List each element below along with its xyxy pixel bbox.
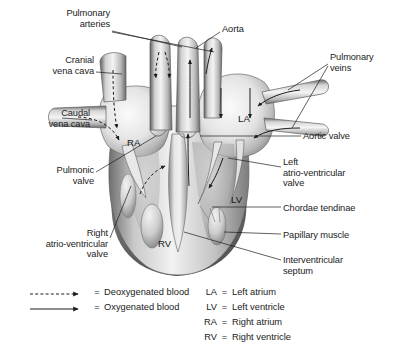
legend-row-deoxygenated: = Deoxygenated blood	[28, 285, 189, 298]
label-aortic-valve: Aortic valve	[303, 131, 389, 142]
label-pulmonic-valve: Pulmonic valve	[14, 165, 94, 186]
abbrev-key-ra: RA	[196, 317, 217, 327]
abbreviation-row-la: LA = Left atrium	[196, 285, 276, 298]
label-interventricular-septum: Interventricular septum	[283, 255, 387, 276]
papillary-muscle-left	[208, 207, 226, 245]
legend-text-oxygenated: Oxygenated blood	[104, 302, 179, 312]
abbrev-equals-rv: =	[217, 332, 232, 342]
pulmonary-vein-upper	[262, 80, 329, 104]
pulmonary-artery-branch	[204, 38, 222, 118]
label-right-av-valve: Right atrio-ventricular valve	[0, 228, 108, 260]
label-aorta: Aorta	[222, 24, 282, 35]
label-pulmonary-veins: Pulmonary veins	[330, 52, 392, 73]
label-pulmonary-arteries: Pulmonary arteries	[18, 8, 110, 29]
chamber-label-lv: LV	[231, 194, 242, 205]
abbreviation-row-rv: RV = Right ventricle	[196, 330, 291, 343]
abbrev-text-la: Left atrium	[232, 287, 276, 297]
label-left-av-valve: Left atrio-ventricular valve	[283, 157, 391, 189]
abbrev-key-la: LA	[196, 287, 217, 297]
abbrev-equals-lv: =	[217, 302, 232, 312]
legend-equals-oxygenated: =	[90, 302, 104, 312]
abbrev-text-rv: Right ventricle	[232, 332, 291, 342]
chamber-label-ra: RA	[127, 137, 141, 148]
aorta-vessel	[176, 37, 200, 132]
label-cranial-vena-cava: Cranial vena cava	[10, 55, 94, 76]
dashed-arrow-icon	[28, 286, 90, 298]
papillary-muscle-rv-lateral	[120, 174, 136, 218]
abbrev-equals-la: =	[217, 287, 232, 297]
legend-row-oxygenated: = Oxygenated blood	[28, 300, 179, 313]
label-chordae-tendinae: Chordae tendinae	[283, 203, 393, 214]
abbrev-key-rv: RV	[196, 332, 217, 342]
diagram-legend: = Deoxygenated blood = Oxygenated blood …	[0, 279, 393, 337]
legend-text-deoxygenated: Deoxygenated blood	[104, 287, 189, 297]
chamber-label-rv: RV	[158, 238, 171, 249]
abbrev-equals-ra: =	[217, 317, 232, 327]
abbreviation-row-lv: LV = Left ventricle	[196, 300, 285, 313]
pulmonary-trunk-vessel	[150, 35, 172, 130]
abbrev-key-lv: LV	[196, 302, 217, 312]
abbrev-text-lv: Left ventricle	[232, 302, 285, 312]
label-caudal-vena-cava: Caudal vena cava	[6, 108, 90, 129]
chamber-label-la: LA	[238, 113, 250, 124]
label-papillary-muscle: Papillary muscle	[283, 230, 391, 241]
solid-arrow-icon	[28, 301, 90, 313]
abbreviation-row-ra: RA = Right atrium	[196, 315, 282, 328]
abbrev-text-ra: Right atrium	[232, 317, 282, 327]
legend-equals-deoxygenated: =	[90, 287, 104, 297]
